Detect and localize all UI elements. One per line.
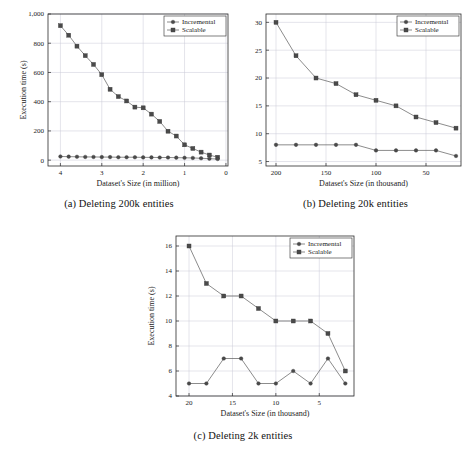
data-point-incremental [216, 157, 220, 161]
y-tick-label: 8 [169, 342, 173, 350]
data-point-scalable [274, 319, 278, 323]
data-point-scalable [222, 294, 226, 298]
x-tick-label: 100 [371, 169, 382, 177]
x-tick-label: 10 [272, 399, 280, 407]
series-line-incremental [276, 145, 456, 156]
data-point-incremental [92, 155, 96, 159]
data-point-scalable [58, 24, 62, 28]
data-point-incremental [334, 143, 338, 147]
data-point-scalable [326, 332, 330, 336]
x-axis-label: Dataset's Size (in million) [97, 179, 180, 188]
figure-a-caption: (a) Deleting 200k entities [0, 198, 238, 209]
data-point-scalable [125, 99, 129, 103]
y-tick-label: 14 [165, 267, 173, 275]
data-point-incremental [434, 149, 438, 153]
x-tick-label: 150 [321, 169, 332, 177]
y-tick-label: 5 [259, 158, 263, 166]
data-point-incremental [454, 154, 458, 158]
data-point-incremental [239, 357, 243, 361]
y-tick-label: 400 [34, 98, 45, 106]
y-tick-label: 16 [165, 242, 173, 250]
data-point-incremental [374, 149, 378, 153]
x-tick-label: 20 [186, 399, 194, 407]
data-point-scalable [454, 126, 458, 130]
data-point-incremental [326, 357, 330, 361]
data-point-incremental [344, 382, 348, 386]
series-line-scalable [60, 26, 217, 158]
y-axis-label: Execution time (s) [19, 60, 28, 119]
figure-a: 02004006008001,00043210Dataset's Size (i… [0, 0, 238, 220]
data-point-incremental [414, 149, 418, 153]
data-point-scalable [334, 82, 338, 86]
series-line-scalable [189, 246, 345, 371]
data-point-scalable [204, 282, 208, 286]
chart-c-svg: 468101214162015105Dataset's Size (in tho… [118, 222, 368, 432]
data-point-incremental [222, 357, 226, 361]
legend-label-incremental: Incremental [308, 240, 341, 248]
data-point-scalable [374, 98, 378, 102]
data-point-scalable [354, 93, 358, 97]
data-point-incremental [59, 155, 63, 159]
data-point-scalable [133, 105, 137, 109]
figure-b-caption: (b) Deleting 20k entities [236, 198, 475, 209]
data-point-incremental [205, 382, 209, 386]
data-point-scalable [256, 307, 260, 311]
data-point-scalable [92, 62, 96, 66]
data-point-incremental [294, 143, 298, 147]
data-point-scalable [394, 104, 398, 108]
data-point-scalable [239, 294, 243, 298]
data-point-scalable [199, 150, 203, 154]
y-tick-label: 12 [165, 292, 173, 300]
data-point-incremental [158, 156, 162, 160]
data-point-scalable [207, 153, 211, 157]
data-point-scalable [149, 112, 153, 116]
legend-marker-incremental [171, 20, 175, 24]
data-point-incremental [309, 382, 313, 386]
figure-a-plot: 02004006008001,00043210Dataset's Size (i… [0, 0, 238, 220]
data-point-incremental [314, 143, 318, 147]
figure-c: 468101214162015105Dataset's Size (in tho… [118, 222, 368, 462]
data-point-scalable [291, 319, 295, 323]
data-point-incremental [257, 382, 261, 386]
data-point-incremental [150, 156, 154, 160]
legend-marker-incremental [404, 20, 408, 24]
y-tick-label: 1,000 [28, 10, 44, 18]
legend-label-incremental: Incremental [415, 18, 448, 26]
data-point-incremental [208, 157, 212, 161]
x-tick-label: 2 [141, 169, 145, 177]
data-point-scalable [158, 119, 162, 123]
y-tick-label: 30 [255, 19, 263, 27]
data-point-scalable [141, 106, 145, 110]
x-axis-label: Dataset's Size (in thousand) [319, 179, 408, 188]
figure-c-caption: (c) Deleting 2k entities [118, 430, 368, 441]
legend-marker-scalable [404, 28, 408, 32]
plot-frame [48, 14, 228, 166]
data-point-scalable [274, 20, 278, 24]
x-tick-label: 200 [271, 169, 282, 177]
data-point-incremental [174, 156, 178, 160]
figure-c-plot: 468101214162015105Dataset's Size (in tho… [118, 222, 368, 462]
legend-marker-scalable [297, 250, 301, 254]
data-point-incremental [274, 382, 278, 386]
legend-label-scalable: Scalable [308, 248, 332, 256]
data-point-incremental [394, 149, 398, 153]
data-point-scalable [414, 115, 418, 119]
data-point-incremental [67, 155, 71, 159]
legend-marker-scalable [171, 28, 175, 32]
data-point-scalable [191, 146, 195, 150]
data-point-incremental [125, 155, 129, 159]
legend-label-incremental: Incremental [182, 18, 215, 26]
data-point-incremental [100, 155, 104, 159]
y-tick-label: 800 [34, 40, 45, 48]
data-point-scalable [309, 319, 313, 323]
data-point-scalable [294, 54, 298, 58]
data-point-scalable [183, 143, 187, 147]
data-point-scalable [100, 73, 104, 77]
legend-marker-incremental [297, 242, 301, 246]
figure-b: 5101520253020015010050Dataset's Size (in… [236, 0, 475, 220]
data-point-scalable [166, 129, 170, 133]
x-tick-label: 0 [224, 169, 228, 177]
chart-b-svg: 5101520253020015010050Dataset's Size (in… [236, 0, 475, 200]
data-point-incremental [166, 156, 170, 160]
data-point-incremental [354, 143, 358, 147]
